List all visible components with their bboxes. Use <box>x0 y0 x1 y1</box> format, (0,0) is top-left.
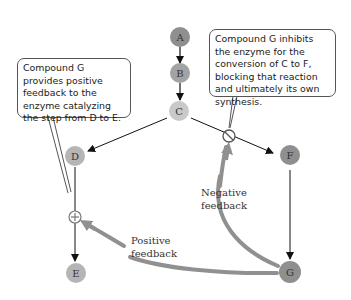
node-a: A <box>170 27 190 47</box>
positive-feedback-label-1: Positive <box>131 235 171 246</box>
negative-feedback-callout: Compound G inhibits the enzyme for the c… <box>209 29 336 97</box>
svg-text:B: B <box>176 68 183 79</box>
node-b: B <box>170 63 190 83</box>
node-c: C <box>169 101 189 121</box>
positive-feedback-callout: Compound G provides positive feedback to… <box>17 58 131 118</box>
svg-text:E: E <box>72 268 79 279</box>
node-f: F <box>280 145 300 165</box>
svg-text:F: F <box>287 150 294 161</box>
inhibitor-slash-icon <box>223 130 235 142</box>
svg-text:D: D <box>71 151 79 162</box>
node-e: E <box>66 263 86 283</box>
svg-text:G: G <box>286 267 294 278</box>
svg-text:C: C <box>175 106 183 117</box>
node-d: D <box>65 146 85 166</box>
svg-text:A: A <box>175 32 184 43</box>
negative-feedback-label-1: Negative <box>201 187 247 198</box>
negative-feedback-label-2: feedback <box>201 200 248 211</box>
activator-plus-icon <box>69 211 81 223</box>
feedback-diagram: A B C D E F G Negative feedback Positiv <box>0 0 351 300</box>
positive-feedback-label-2: feedback <box>131 248 178 259</box>
node-g: G <box>279 261 301 283</box>
